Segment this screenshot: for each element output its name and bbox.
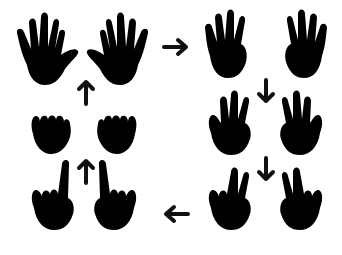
arrow-up-icon (79, 161, 93, 183)
fist-left (32, 116, 71, 155)
open-hand-left (17, 13, 78, 86)
illustration-canvas (0, 0, 342, 255)
arrow-up-icon (79, 82, 93, 104)
hand-counting-illustration: Hand counting gesture cycle (0, 0, 342, 255)
arrow-right-icon (164, 40, 186, 54)
fist-right (97, 116, 136, 155)
two-fingers-right (280, 168, 322, 231)
four-fingers-left (205, 10, 247, 79)
arrow-down-icon (259, 158, 273, 179)
three-fingers-left (209, 91, 251, 156)
arrow-left-icon (166, 207, 188, 221)
arrow-down-icon (259, 80, 273, 101)
four-fingers-right (285, 10, 327, 79)
one-finger-right (94, 160, 136, 230)
one-finger-left (32, 160, 74, 230)
three-fingers-right (280, 91, 322, 156)
open-hand-right (87, 13, 148, 86)
two-fingers-left (209, 168, 251, 231)
